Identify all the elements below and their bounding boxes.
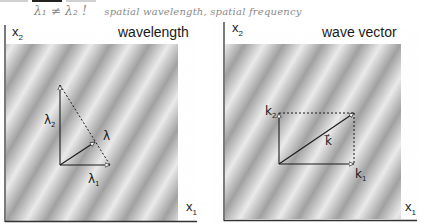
- lambda2-label: λ2: [44, 113, 56, 129]
- x-axis-label: x1: [186, 199, 197, 217]
- panel-title: wavelength: [118, 24, 189, 40]
- panel-title: wave vector: [322, 24, 397, 40]
- grating-grain: [6, 44, 178, 221]
- y-axis-label: x2: [12, 24, 23, 42]
- lambda-label: λ: [103, 129, 110, 143]
- k2-label: k2: [265, 104, 276, 120]
- lambda1-label: λ1: [88, 172, 100, 188]
- k1-label: k1: [355, 167, 366, 183]
- k-vector-label: k⃗: [325, 134, 332, 148]
- x-axis-label: x1: [405, 199, 416, 217]
- y-axis-label: x2: [232, 20, 243, 38]
- wavelength-panel: x2 wavelength x1 λ2 λ λ1: [0, 0, 212, 223]
- wave-vector-panel: x2 wave vector x1 k2 k⃗ k1: [212, 0, 423, 223]
- grating-grain: [225, 44, 401, 219]
